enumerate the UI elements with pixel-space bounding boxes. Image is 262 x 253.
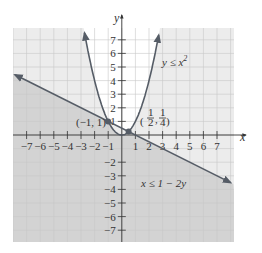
x-axis-label: x xyxy=(239,130,246,144)
svg-text:2: 2 xyxy=(148,116,154,128)
x-tick-label: −5 xyxy=(48,140,60,152)
x-tick-label: 5 xyxy=(187,140,193,152)
y-tick-label: −7 xyxy=(104,224,116,236)
y-tick-label: 3 xyxy=(110,88,116,100)
y-axis-label: y xyxy=(113,11,120,25)
line-label: x ≤ 1 − 2y xyxy=(140,177,186,189)
svg-text:): ) xyxy=(166,115,170,128)
x-tick-label: −1 xyxy=(102,140,114,152)
y-tick-label: 6 xyxy=(110,47,116,59)
x-tick-label: 7 xyxy=(214,140,220,152)
x-tick-label: −4 xyxy=(62,140,74,152)
y-tick-label: −4 xyxy=(104,183,116,195)
intersection-point xyxy=(126,129,132,135)
point-a-label: (−1, 1) xyxy=(76,116,106,129)
shaded-regions xyxy=(8,0,239,247)
x-tick-label: 6 xyxy=(201,140,207,152)
x-tick-label: −2 xyxy=(89,140,101,152)
inequality-graph: −7−6−5−4−3−2−11234567−7−6−5−4−3−21234567… xyxy=(0,0,262,253)
x-tick-label: −3 xyxy=(75,140,87,152)
svg-text:,: , xyxy=(155,113,158,125)
x-tick-label: −7 xyxy=(21,140,33,152)
y-tick-label: −5 xyxy=(104,197,116,209)
y-tick-label: 5 xyxy=(110,61,116,73)
x-tick-label: 4 xyxy=(173,140,179,152)
y-tick-label: −3 xyxy=(104,170,116,182)
y-tick-label: 7 xyxy=(110,34,116,46)
intersection-point xyxy=(105,118,111,124)
y-tick-label: 4 xyxy=(110,75,116,87)
x-tick-label: −6 xyxy=(34,140,46,152)
svg-text:(: ( xyxy=(140,115,144,128)
x-tick-label: 1 xyxy=(133,140,139,152)
y-tick-label: −2 xyxy=(104,156,116,168)
y-tick-label: 2 xyxy=(110,102,116,114)
y-tick-label: −6 xyxy=(104,211,116,223)
